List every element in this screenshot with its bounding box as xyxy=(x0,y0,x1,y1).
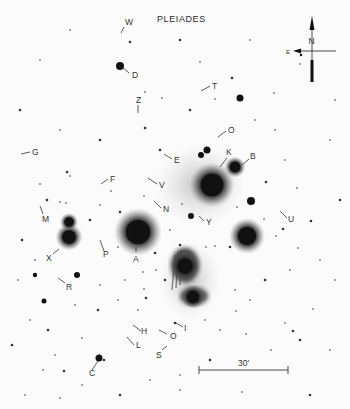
star-label-l: L xyxy=(127,337,141,350)
faint-star xyxy=(129,41,132,44)
leader-line xyxy=(58,278,65,283)
label-text: W xyxy=(125,17,133,27)
faint-star xyxy=(219,329,221,331)
star-label-d: D xyxy=(122,67,138,80)
star-label-z: Z xyxy=(136,95,141,113)
label-text: S xyxy=(156,350,162,360)
faint-star xyxy=(164,279,167,282)
faint-star xyxy=(282,228,285,231)
faint-star xyxy=(142,271,144,273)
faint-star xyxy=(274,129,276,131)
faint-star xyxy=(29,319,31,321)
star-label-u: U xyxy=(280,211,294,224)
faint-star xyxy=(21,239,24,242)
faint-star xyxy=(199,61,201,63)
faint-star xyxy=(143,195,145,197)
star-west-R2 xyxy=(33,273,37,277)
leader-line xyxy=(121,27,124,33)
star-label-t: T xyxy=(201,81,217,91)
label-text: I xyxy=(184,323,186,333)
faint-star xyxy=(297,247,299,249)
faint-star xyxy=(119,394,122,397)
star-T-region xyxy=(237,95,244,102)
faint-star xyxy=(59,201,61,203)
faint-star xyxy=(11,344,14,347)
faint-star xyxy=(65,202,67,204)
pleiades-star-chart: WDTZOGEKBFVNMUYPXARIHOLSC PLEIADES N E 3… xyxy=(0,0,350,409)
faint-star xyxy=(81,337,83,339)
label-text: C xyxy=(89,368,95,378)
label-text: U xyxy=(288,214,294,224)
label-text: H xyxy=(141,326,147,336)
faint-star xyxy=(254,119,256,121)
faint-star xyxy=(329,139,331,141)
label-text: K xyxy=(226,147,232,157)
star-D-star xyxy=(116,62,124,70)
faint-star xyxy=(155,269,157,271)
faint-star xyxy=(319,259,321,261)
leader-line xyxy=(218,131,226,137)
faint-star xyxy=(275,235,277,237)
leader-line xyxy=(159,330,167,334)
star-label-m: M xyxy=(40,206,49,224)
star-label-f: F xyxy=(101,174,115,184)
faint-star xyxy=(310,220,313,223)
leader-line xyxy=(127,337,134,345)
faint-star xyxy=(159,149,162,152)
faint-star xyxy=(110,190,112,192)
faint-star xyxy=(69,175,71,177)
star-label-x: X xyxy=(46,249,59,263)
north-arrow-icon xyxy=(310,16,315,30)
label-text: F xyxy=(110,174,115,184)
faint-star xyxy=(179,244,182,247)
faint-star xyxy=(99,204,101,206)
faint-star xyxy=(245,333,247,335)
faint-star xyxy=(249,299,251,301)
leader-line xyxy=(101,179,108,184)
faint-star xyxy=(229,246,232,249)
faint-star xyxy=(179,374,181,376)
faint-star xyxy=(270,349,272,351)
star-west-R xyxy=(74,272,80,278)
faint-star xyxy=(234,289,236,291)
faint-star xyxy=(263,218,265,220)
faint-star xyxy=(231,77,234,80)
faint-star xyxy=(117,299,119,301)
faint-star xyxy=(299,339,302,342)
star-label-r: R xyxy=(58,278,72,292)
label-text: E xyxy=(174,155,180,165)
faint-star xyxy=(292,330,295,333)
label-text: G xyxy=(32,147,39,157)
star-field: WDTZOGEKBFVNMUYPXARIHOLSC PLEIADES N E 3… xyxy=(0,0,350,409)
faint-star xyxy=(99,139,102,142)
compass-north-label: N xyxy=(309,36,315,46)
star-label-i: I xyxy=(176,323,186,333)
faint-star xyxy=(174,322,177,325)
faint-star xyxy=(145,297,148,300)
faint-star xyxy=(214,98,216,100)
star-label-w: W xyxy=(121,17,133,33)
faint-star xyxy=(124,279,126,281)
star-label-p: P xyxy=(100,240,109,259)
faint-star xyxy=(209,359,212,362)
leader-line xyxy=(176,323,183,327)
compass-east-label: E xyxy=(286,49,290,55)
faint-star xyxy=(42,369,44,371)
star-east-mid xyxy=(247,197,255,205)
leader-line xyxy=(133,325,141,331)
faint-star xyxy=(249,39,251,41)
label-text: O xyxy=(228,125,235,135)
faint-star xyxy=(63,370,66,373)
scale-bar: 30' xyxy=(199,358,288,374)
faint-star xyxy=(137,309,139,311)
faint-star xyxy=(144,91,146,93)
label-text: M xyxy=(42,214,49,224)
star-B-star xyxy=(225,157,246,178)
leader-line xyxy=(201,86,210,91)
star-east-bright xyxy=(229,218,265,254)
label-text: N xyxy=(163,204,169,214)
faint-star xyxy=(54,354,56,356)
star-west-low xyxy=(42,299,47,304)
faint-star xyxy=(46,199,49,202)
star-label-s: S xyxy=(156,346,167,360)
